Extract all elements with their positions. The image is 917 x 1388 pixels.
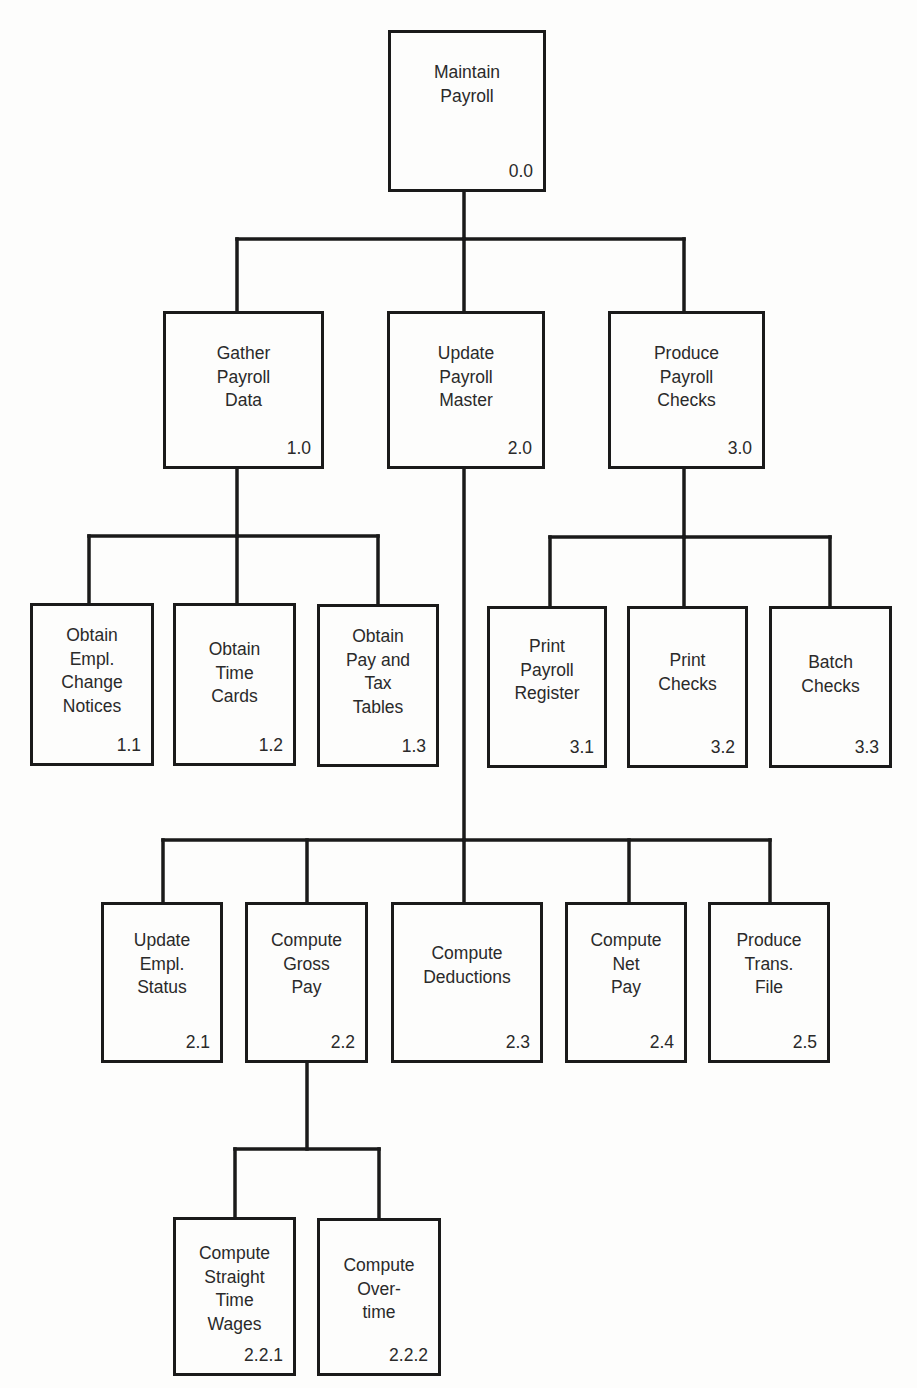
- node-number: 2.5: [793, 1032, 817, 1052]
- node-compute-net-pay: Compute Net Pay 2.4: [565, 902, 687, 1063]
- node-batch-checks: Batch Checks 3.3: [769, 606, 892, 768]
- node-update-empl-status: Update Empl. Status 2.1: [101, 902, 223, 1063]
- node-label: Produce Trans. File: [711, 929, 827, 1000]
- node-number: 2.0: [508, 438, 532, 458]
- node-label: Batch Checks: [772, 651, 889, 698]
- node-number: 0.0: [509, 161, 533, 181]
- node-number: 3.2: [711, 737, 735, 757]
- node-label: Update Empl. Status: [104, 929, 220, 1000]
- node-label: Compute Straight Time Wages: [176, 1242, 293, 1336]
- node-label: Obtain Time Cards: [176, 638, 293, 709]
- node-label: Maintain Payroll: [391, 61, 543, 108]
- node-label: Gather Payroll Data: [166, 342, 321, 413]
- node-number: 2.4: [650, 1032, 674, 1052]
- node-print-checks: Print Checks 3.2: [627, 606, 748, 768]
- node-number: 3.0: [728, 438, 752, 458]
- node-compute-overtime: Compute Over- time 2.2.2: [317, 1218, 441, 1376]
- node-compute-straight-time-wages: Compute Straight Time Wages 2.2.1: [173, 1217, 296, 1376]
- node-maintain-payroll: Maintain Payroll 0.0: [388, 30, 546, 192]
- node-obtain-pay-and-tax-tables: Obtain Pay and Tax Tables 1.3: [317, 604, 439, 767]
- node-compute-deductions: Compute Deductions 2.3: [391, 902, 543, 1063]
- node-number: 1.2: [259, 735, 283, 755]
- node-obtain-empl-change-notices: Obtain Empl. Change Notices 1.1: [30, 603, 154, 766]
- node-number: 2.1: [186, 1032, 210, 1052]
- node-number: 2.2: [331, 1032, 355, 1052]
- node-label: Print Checks: [630, 649, 745, 696]
- node-label: Obtain Pay and Tax Tables: [320, 625, 436, 719]
- node-label: Print Payroll Register: [490, 635, 604, 706]
- node-number: 3.3: [855, 737, 879, 757]
- node-label: Produce Payroll Checks: [611, 342, 762, 413]
- node-update-payroll-master: Update Payroll Master 2.0: [387, 311, 545, 469]
- node-label: Compute Net Pay: [568, 929, 684, 1000]
- node-label: Obtain Empl. Change Notices: [33, 624, 151, 718]
- node-gather-payroll-data: Gather Payroll Data 1.0: [163, 311, 324, 469]
- node-number: 1.0: [287, 438, 311, 458]
- node-number: 1.1: [117, 735, 141, 755]
- node-compute-gross-pay: Compute Gross Pay 2.2: [245, 902, 368, 1063]
- node-print-payroll-register: Print Payroll Register 3.1: [487, 606, 607, 768]
- node-obtain-time-cards: Obtain Time Cards 1.2: [173, 603, 296, 766]
- node-number: 3.1: [570, 737, 594, 757]
- node-produce-trans-file: Produce Trans. File 2.5: [708, 902, 830, 1063]
- node-number: 1.3: [402, 736, 426, 756]
- node-produce-payroll-checks: Produce Payroll Checks 3.0: [608, 311, 765, 469]
- node-label: Compute Over- time: [320, 1254, 438, 1325]
- node-label: Compute Gross Pay: [248, 929, 365, 1000]
- node-number: 2.3: [506, 1032, 530, 1052]
- node-label: Update Payroll Master: [390, 342, 542, 413]
- node-label: Compute Deductions: [394, 942, 540, 989]
- node-number: 2.2.1: [244, 1345, 283, 1365]
- payroll-hierarchy-diagram: Maintain Payroll 0.0 Gather Payroll Data…: [0, 0, 917, 1388]
- node-number: 2.2.2: [389, 1345, 428, 1365]
